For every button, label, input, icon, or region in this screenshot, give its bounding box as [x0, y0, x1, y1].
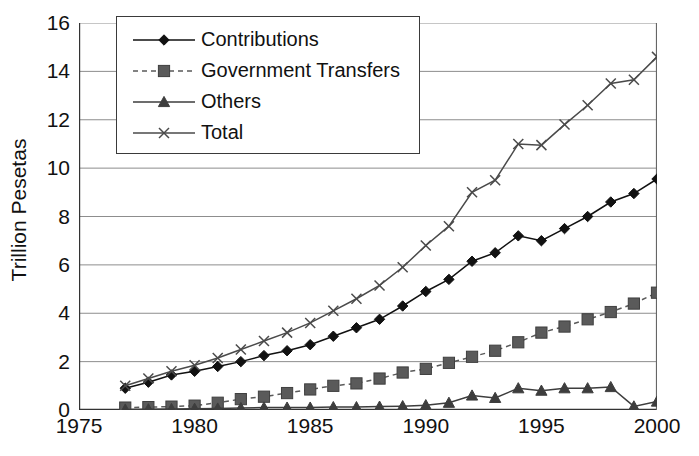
- x-axis-tick: 2000: [634, 414, 681, 438]
- y-axis-tick: 12: [28, 108, 76, 132]
- data-point-square: [443, 357, 454, 368]
- data-point-square: [374, 373, 385, 384]
- data-point-square: [536, 327, 547, 338]
- data-point-square: [466, 351, 477, 362]
- data-point-diamond: [213, 361, 223, 371]
- data-point-square: [605, 306, 616, 317]
- data-point-square: [490, 345, 501, 356]
- data-point-diamond: [490, 248, 500, 258]
- x-axis-tick: 1995: [518, 414, 565, 438]
- legend-item-contributions: Contributions: [117, 24, 419, 55]
- legend-x-icon: [131, 123, 197, 143]
- data-point-diamond: [374, 314, 384, 324]
- data-point-diamond: [328, 331, 338, 341]
- legend-item-government-transfers: Government Transfers: [117, 55, 419, 86]
- data-point-triangle: [513, 383, 524, 393]
- data-point-square: [651, 287, 657, 298]
- data-point-square: [305, 384, 316, 395]
- data-point-x: [375, 280, 385, 290]
- data-point-triangle: [328, 401, 339, 410]
- data-point-diamond: [629, 188, 639, 198]
- chart-legend: Contributions Government Transfers Other…: [116, 16, 420, 154]
- data-point-diamond: [397, 301, 407, 311]
- data-point-square: [420, 363, 431, 374]
- data-point-x: [444, 221, 454, 231]
- data-point-diamond: [259, 350, 269, 360]
- data-point-x: [490, 175, 500, 185]
- x-axis-tick: 1990: [402, 414, 449, 438]
- legend-label: Government Transfers: [197, 59, 400, 82]
- data-point-diamond: [421, 286, 431, 296]
- data-point-diamond: [282, 346, 292, 356]
- data-point-square: [351, 378, 362, 389]
- data-point-square: [582, 314, 593, 325]
- legend-label: Total: [197, 121, 243, 144]
- data-point-square: [158, 65, 169, 76]
- x-axis-tick: 1985: [287, 414, 334, 438]
- legend-triangle-icon: [131, 92, 197, 112]
- data-point-diamond: [189, 366, 199, 376]
- x-axis-tick: 1975: [56, 414, 103, 438]
- data-point-x: [560, 120, 570, 130]
- data-point-triangle: [351, 401, 362, 410]
- data-point-square: [628, 298, 639, 309]
- data-point-triangle: [651, 396, 657, 406]
- y-axis-tick: 16: [28, 11, 76, 35]
- data-point-square: [258, 391, 269, 402]
- data-point-diamond: [606, 197, 616, 207]
- data-point-square: [328, 380, 339, 391]
- data-point-square: [281, 387, 292, 398]
- data-point-x: [421, 241, 431, 251]
- data-point-diamond: [513, 231, 523, 241]
- data-point-x: [351, 294, 361, 304]
- data-point-triangle: [374, 401, 385, 410]
- legend-item-others: Others: [117, 86, 419, 117]
- series-contributions: [120, 174, 657, 394]
- data-point-x: [305, 318, 315, 328]
- data-point-triangle: [305, 402, 316, 410]
- series-line: [125, 179, 657, 388]
- y-axis-tick: 10: [28, 156, 76, 180]
- x-axis-tick: 1980: [171, 414, 218, 438]
- y-axis-tick: 14: [28, 59, 76, 83]
- data-point-x: [259, 336, 269, 346]
- data-point-x: [236, 345, 246, 355]
- chart-container: Trillion Pesetas 0246810121416 Contribut…: [0, 0, 699, 456]
- y-axis-tick: 8: [28, 205, 76, 229]
- data-point-square: [513, 337, 524, 348]
- data-point-square: [397, 367, 408, 378]
- data-point-triangle: [466, 390, 477, 400]
- data-point-x: [583, 100, 593, 110]
- data-point-diamond: [536, 235, 546, 245]
- data-point-triangle: [258, 402, 269, 410]
- data-point-square: [559, 321, 570, 332]
- data-point-x: [282, 328, 292, 338]
- data-point-x: [328, 306, 338, 316]
- y-axis-tick: 2: [28, 350, 76, 374]
- series-government-transfers: [120, 287, 657, 410]
- data-point-diamond: [236, 356, 246, 366]
- legend-square-icon: [131, 61, 197, 81]
- legend-label: Contributions: [197, 28, 319, 51]
- data-point-diamond: [559, 223, 569, 233]
- y-axis-tick-labels: 0246810121416: [24, 0, 76, 456]
- legend-label: Others: [197, 90, 261, 113]
- data-point-diamond: [582, 211, 592, 221]
- series-line: [125, 387, 657, 410]
- data-point-diamond: [305, 339, 315, 349]
- data-point-x: [398, 262, 408, 272]
- legend-diamond-icon: [131, 30, 197, 50]
- data-point-x: [467, 187, 477, 197]
- data-point-diamond: [159, 34, 169, 44]
- y-axis-tick: 6: [28, 253, 76, 277]
- legend-item-total: Total: [117, 117, 419, 148]
- data-point-triangle: [281, 402, 292, 410]
- y-axis-tick: 4: [28, 301, 76, 325]
- series-line: [125, 293, 657, 408]
- data-point-diamond: [351, 323, 361, 333]
